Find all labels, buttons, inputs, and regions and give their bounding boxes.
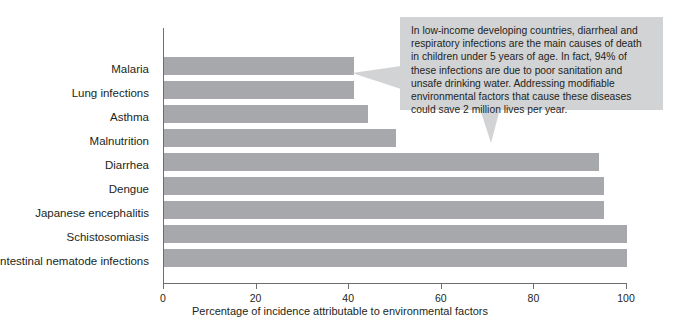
x-tick-0 xyxy=(163,283,164,289)
category-label-dengue: Dengue xyxy=(0,177,157,201)
category-axis-labels: Malaria Lung infections Asthma Malnutrit… xyxy=(0,57,157,273)
x-tick-label-20: 20 xyxy=(250,292,262,304)
bar-asthma xyxy=(164,105,368,123)
bar-chart: Malaria Lung infections Asthma Malnutrit… xyxy=(0,0,680,336)
category-label-malaria: Malaria xyxy=(0,57,157,81)
category-label-asthma: Asthma xyxy=(0,105,157,129)
category-label-diarrhea: Diarrhea xyxy=(0,153,157,177)
x-tick-label-0: 0 xyxy=(160,292,166,304)
x-tick-label-40: 40 xyxy=(342,292,354,304)
x-tick-label-60: 60 xyxy=(435,292,447,304)
bar-japanese-encephalitis xyxy=(164,201,604,219)
bar-dengue xyxy=(164,177,604,195)
x-tick-100 xyxy=(626,283,627,289)
bar-diarrhea xyxy=(164,153,599,171)
bar-lung-infections xyxy=(164,81,354,99)
x-axis-title: Percentage of incidence attributable to … xyxy=(0,305,680,317)
bar-malaria xyxy=(164,57,354,75)
category-label-intestinal-nematode-infections: Intestinal nematode infections xyxy=(0,249,157,273)
category-label-malnutrition: Malnutrition xyxy=(0,129,157,153)
x-tick-60 xyxy=(441,283,442,289)
bar-row xyxy=(164,249,627,273)
category-label-schistosomiasis: Schistosomiasis xyxy=(0,225,157,249)
x-tick-80 xyxy=(533,283,534,289)
bar-intestinal-nematode-infections xyxy=(164,249,627,267)
x-tick-label-100: 100 xyxy=(617,292,635,304)
callout-pointer-left xyxy=(352,66,401,89)
x-tick-20 xyxy=(256,283,257,289)
bar-row xyxy=(164,225,627,249)
category-label-lung-infections: Lung infections xyxy=(0,81,157,105)
bar-row xyxy=(164,129,627,153)
category-label-japanese-encephalitis: Japanese encephalitis xyxy=(0,201,157,225)
x-tick-40 xyxy=(348,283,349,289)
annotation-callout: In low-income developing countries, diar… xyxy=(400,17,663,110)
x-tick-label-80: 80 xyxy=(528,292,540,304)
bar-row xyxy=(164,177,627,201)
bar-row xyxy=(164,153,627,177)
bar-schistosomiasis xyxy=(164,225,627,243)
bar-row xyxy=(164,201,627,225)
bar-malnutrition xyxy=(164,129,396,147)
x-axis-line xyxy=(163,283,627,284)
